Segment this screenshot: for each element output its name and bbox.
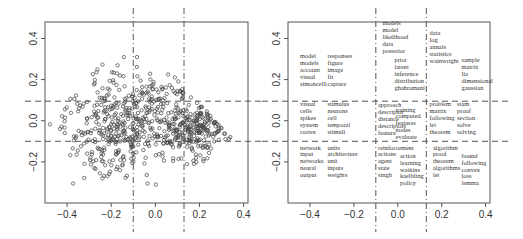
data-point — [144, 156, 147, 159]
data-point — [159, 134, 162, 137]
data-point — [137, 143, 140, 146]
word-label: weights — [328, 171, 348, 178]
word-group-top-right-b: samplematrixliadimensionalgaussian — [462, 56, 493, 91]
data-point — [73, 97, 76, 100]
y-tick-label: 0.0 — [271, 113, 282, 127]
data-point — [101, 63, 104, 66]
data-point — [206, 157, 209, 160]
data-point — [153, 113, 156, 116]
word-group-bot-left-b: unitsarchitectureunitinputsweights — [328, 144, 358, 179]
word-label: let — [433, 171, 440, 178]
data-point — [159, 102, 162, 105]
data-point — [115, 72, 118, 75]
data-point — [118, 88, 121, 91]
data-point — [90, 116, 93, 119]
data-point — [82, 102, 85, 105]
data-point — [148, 85, 151, 88]
data-point — [122, 75, 125, 78]
data-point — [157, 91, 160, 94]
data-point — [101, 87, 104, 90]
data-point — [199, 154, 202, 157]
x-tick-label: −0.4 — [57, 209, 77, 220]
data-point — [164, 86, 167, 89]
data-point — [83, 176, 86, 179]
data-point — [162, 159, 165, 162]
data-point — [166, 73, 169, 76]
data-point — [79, 145, 82, 148]
word-group-mid-left-a: visualcellsspikessystemcortex — [300, 100, 318, 135]
data-point — [161, 155, 164, 158]
data-point — [91, 73, 94, 76]
data-point — [60, 115, 63, 118]
data-point — [110, 164, 113, 167]
data-point — [165, 102, 168, 105]
data-point — [108, 160, 111, 163]
data-point — [101, 137, 104, 140]
word-cluster-panel: −0.4−0.20.00.20.4−0.20.00.20.4modelmodel… — [262, 8, 510, 232]
word-group-bot-middle-b: actionlearningwatkinskaelblingpolicy — [400, 152, 425, 187]
data-point — [63, 131, 66, 134]
word-label: lemma — [462, 179, 480, 186]
plot-frame — [45, 22, 248, 203]
word-label: feature — [378, 129, 396, 136]
y-tick-label: 0.4 — [28, 31, 39, 45]
data-point — [136, 75, 139, 78]
data-point — [135, 65, 138, 68]
figure: −0.4−0.20.00.20.4−0.20.00.20.4 −0.4−0.20… — [0, 0, 523, 239]
data-point — [123, 85, 126, 88]
y-tick-label: 0.4 — [271, 31, 282, 45]
data-point — [110, 116, 113, 119]
data-point — [191, 116, 194, 119]
data-point — [119, 158, 122, 161]
data-point — [113, 96, 116, 99]
data-point — [95, 120, 98, 123]
data-point — [97, 123, 100, 126]
y-tick-label: 0.2 — [28, 72, 39, 86]
data-point — [117, 102, 120, 105]
data-point — [165, 92, 168, 95]
data-point — [202, 160, 205, 163]
data-point — [103, 164, 106, 167]
data-point — [71, 182, 74, 185]
data-point — [115, 83, 118, 86]
data-point — [85, 122, 88, 125]
data-point — [100, 103, 103, 106]
data-point — [185, 145, 188, 148]
data-point — [69, 154, 72, 157]
word-label: wainwright — [430, 57, 459, 64]
word-label: singh — [378, 171, 393, 178]
data-point — [154, 183, 157, 186]
word-group-mid-right-a: problemmatrixfollowinglettheorem — [430, 100, 456, 135]
data-point — [96, 91, 99, 94]
data-point — [156, 111, 159, 114]
data-point — [142, 148, 145, 151]
data-point — [148, 134, 151, 137]
data-point — [101, 126, 104, 129]
data-point — [146, 182, 149, 185]
x-tick-label: 0.0 — [391, 209, 405, 220]
data-point — [74, 94, 77, 97]
data-point — [224, 137, 227, 140]
data-point — [93, 78, 96, 81]
y-tick-label: −0.2 — [28, 152, 39, 172]
word-group-bot-right-b: boundfollowingconvexlosslemma — [462, 152, 488, 187]
y-tick-label: 0.0 — [28, 113, 39, 127]
data-point — [89, 156, 92, 159]
word-group-mid-right-b: siamproofsectionsolvesolving — [457, 100, 477, 135]
data-point — [116, 64, 119, 67]
x-tick-label: 0.0 — [148, 209, 162, 220]
data-point — [165, 116, 168, 119]
data-point — [170, 86, 173, 89]
data-point — [69, 111, 72, 114]
word-label: ghahramani — [395, 84, 425, 91]
data-point — [63, 120, 66, 123]
word-group-mid-left-b: stimulusneuronscelltemporalstimuli — [328, 100, 351, 135]
data-point — [111, 159, 114, 162]
data-point — [173, 76, 176, 79]
data-point — [118, 169, 121, 172]
word-label: posterior — [382, 47, 406, 54]
data-point — [63, 126, 66, 129]
data-point — [145, 85, 148, 88]
x-tick-label: −0.2 — [344, 209, 364, 220]
data-point — [135, 55, 138, 58]
